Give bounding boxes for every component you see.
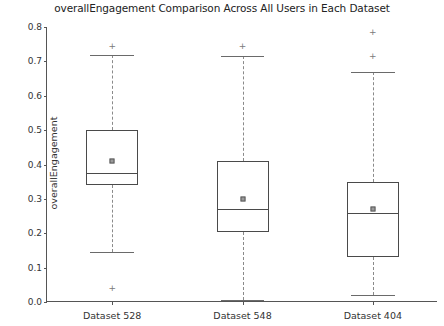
- cap-upper: [90, 55, 134, 56]
- x-tick-mark: [243, 302, 244, 305]
- median-line: [86, 173, 138, 174]
- x-tick-label: Dataset 548: [213, 310, 271, 321]
- outlier-marker: +: [108, 283, 116, 292]
- y-tick-label: 0.6: [28, 91, 42, 101]
- median-line: [347, 213, 399, 214]
- y-tick-label: 0.2: [28, 228, 42, 238]
- whisker-lower: [243, 232, 244, 301]
- y-tick-label: 0.8: [28, 22, 42, 32]
- chart-title: overallEngagement Comparison Across All …: [0, 2, 444, 14]
- mean-marker: [110, 159, 115, 164]
- y-tick-label: 0.0: [28, 297, 42, 307]
- cap-upper: [221, 56, 265, 57]
- cap-upper: [351, 72, 395, 73]
- y-tick-mark: [44, 199, 47, 200]
- y-tick-mark: [44, 268, 47, 269]
- whisker-lower: [373, 257, 374, 295]
- y-tick-mark: [44, 130, 47, 131]
- whisker-upper: [373, 72, 374, 182]
- whisker-upper: [112, 55, 113, 130]
- outlier-marker: +: [108, 41, 116, 50]
- y-tick-mark: [44, 302, 47, 303]
- chart-figure: overallEngagement Comparison Across All …: [0, 0, 444, 326]
- x-tick-label: Dataset 528: [83, 310, 141, 321]
- cap-lower: [221, 300, 265, 301]
- x-tick-label: Dataset 404: [344, 310, 402, 321]
- y-tick-mark: [44, 61, 47, 62]
- x-tick-mark: [373, 302, 374, 305]
- box-rect: [347, 182, 399, 258]
- y-tick-mark: [44, 96, 47, 97]
- outlier-marker: +: [369, 28, 377, 37]
- mean-marker: [370, 207, 375, 212]
- whisker-lower: [112, 185, 113, 252]
- cap-lower: [351, 295, 395, 296]
- outlier-marker: +: [369, 52, 377, 61]
- y-tick-mark: [44, 165, 47, 166]
- y-tick-label: 0.4: [28, 160, 42, 170]
- cap-lower: [90, 252, 134, 253]
- outlier-marker: +: [239, 41, 247, 50]
- y-tick-label: 0.7: [28, 56, 42, 66]
- mean-marker: [240, 196, 245, 201]
- x-tick-mark: [112, 302, 113, 305]
- y-tick-label: 0.5: [28, 125, 42, 135]
- y-tick-mark: [44, 233, 47, 234]
- plot-area: 0.00.10.20.30.40.50.60.70.8Dataset 528++…: [46, 27, 437, 302]
- y-tick-mark: [44, 27, 47, 28]
- median-line: [217, 209, 269, 210]
- y-tick-label: 0.3: [28, 194, 42, 204]
- plot-inner: 0.00.10.20.30.40.50.60.70.8Dataset 528++…: [47, 27, 438, 302]
- y-tick-label: 0.1: [28, 263, 42, 273]
- whisker-upper: [243, 56, 244, 161]
